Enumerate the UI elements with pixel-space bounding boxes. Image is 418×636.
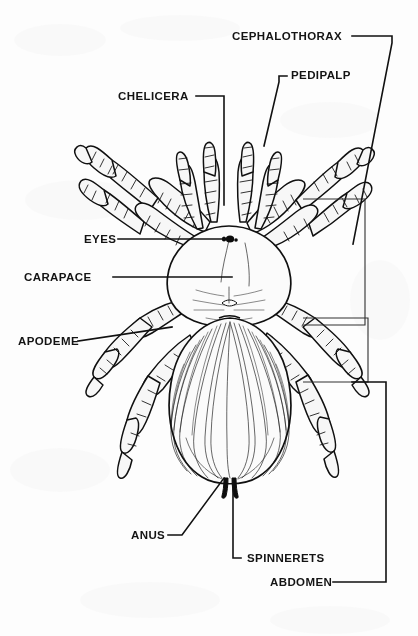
label-chelicera: CHELICERA	[118, 90, 189, 102]
abdomen	[169, 318, 291, 484]
spider-anatomy-figure: CEPHALOTHORAX PEDIPALP CHELICERA EYES CA…	[0, 0, 418, 636]
label-anus: ANUS	[131, 529, 165, 541]
anatomy-svg: CEPHALOTHORAX PEDIPALP CHELICERA EYES CA…	[0, 0, 418, 636]
label-eyes: EYES	[84, 233, 116, 245]
label-spinnerets: SPINNERETS	[247, 552, 325, 564]
label-abdomen: ABDOMEN	[270, 576, 332, 588]
label-cephalothorax: CEPHALOTHORAX	[232, 30, 342, 42]
label-carapace: CARAPACE	[24, 271, 92, 283]
label-pedipalp: PEDIPALP	[291, 69, 351, 81]
label-apodeme: APODEME	[18, 335, 79, 347]
